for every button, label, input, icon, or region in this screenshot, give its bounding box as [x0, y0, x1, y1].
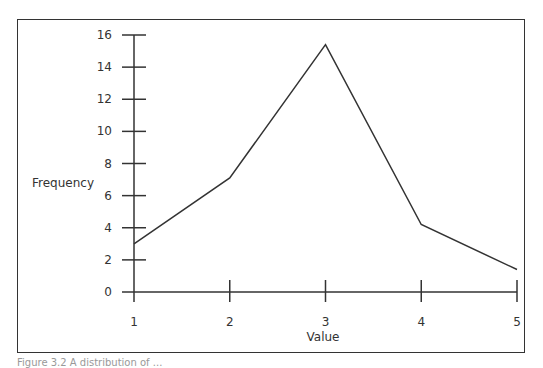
x-tick-label: 2: [226, 315, 234, 329]
x-tick-label: 4: [417, 315, 425, 329]
y-tick-label: 14: [97, 60, 112, 74]
y-axis: 0246810121416: [97, 28, 146, 302]
y-tick-label: 4: [104, 221, 112, 235]
figure-caption: Figure 3.2 A distribution of ...: [17, 357, 162, 368]
x-axis: 12345: [122, 280, 521, 329]
x-tick-label: 1: [130, 315, 138, 329]
y-tick-label: 12: [97, 92, 112, 106]
x-axis-label: Value: [307, 330, 340, 344]
y-axis-label: Frequency: [32, 176, 94, 190]
frequency-line: [134, 45, 517, 270]
x-tick-label: 3: [322, 315, 330, 329]
y-tick-label: 8: [104, 157, 112, 171]
y-tick-label: 16: [97, 28, 112, 42]
x-tick-label: 5: [513, 315, 521, 329]
y-tick-label: 0: [104, 285, 112, 299]
y-tick-label: 2: [104, 253, 112, 267]
y-tick-label: 10: [97, 124, 112, 138]
y-tick-label: 6: [104, 189, 112, 203]
